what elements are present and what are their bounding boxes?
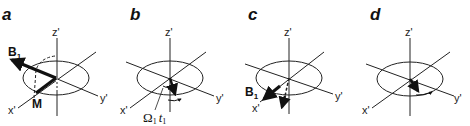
panel-letter-b: b — [130, 5, 140, 24]
b1-vector-arrow — [264, 86, 280, 99]
z-axis-label: z' — [165, 26, 173, 38]
x-axis-label: x' — [8, 104, 16, 116]
z-axis-label: z' — [405, 26, 413, 38]
magnetization-vector — [410, 79, 418, 91]
panel-letter-d: d — [370, 5, 381, 24]
y-axis-label: y' — [454, 92, 462, 104]
y-axis-label: y' — [216, 92, 224, 104]
b1-label: B1 — [8, 45, 22, 61]
b1-vector-arrow — [12, 60, 56, 78]
panel-letter-c: c — [248, 5, 258, 24]
panel-c: c z' y' x' B1 — [245, 5, 343, 114]
z-axis-label: z' — [52, 26, 60, 38]
z-axis-label: z' — [284, 26, 292, 38]
angle-label: Ω1t1 — [143, 110, 166, 126]
y-axis-label: y' — [335, 90, 343, 102]
magnetization-vector — [36, 78, 56, 93]
angle-leader-line — [155, 88, 163, 110]
x-axis-label: x' — [252, 102, 260, 114]
magnetization-vector — [282, 96, 285, 107]
x-axis-label: x' — [120, 104, 128, 116]
x-axis — [130, 52, 206, 108]
nmr-vector-diagram: a z' y' x' B1 M b — [0, 0, 470, 126]
panel-b: b z' y' x' Ω1t1 — [120, 5, 224, 126]
x-axis-label: x' — [362, 104, 370, 116]
y-axis-label: y' — [100, 92, 108, 104]
b1-label: B1 — [245, 85, 259, 101]
m-label: M — [32, 97, 42, 111]
panel-a: a z' y' x' B1 M — [2, 5, 108, 116]
panel-letter-a: a — [2, 5, 11, 24]
panel-d: d z' y' x' — [362, 5, 462, 116]
